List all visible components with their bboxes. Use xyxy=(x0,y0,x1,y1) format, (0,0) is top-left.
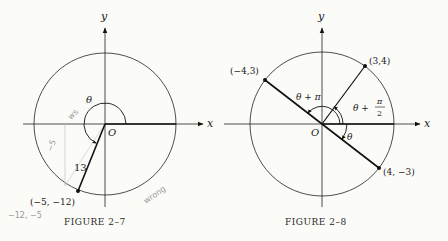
handwritten-wrong-note: wrong xyxy=(142,184,167,206)
radius-label: 13 xyxy=(74,162,87,173)
angle-label-theta: θ xyxy=(86,94,92,105)
ray-minus4-3 xyxy=(265,80,322,124)
y-axis-label: y xyxy=(317,10,325,23)
point-minus4-3-marker xyxy=(263,78,267,82)
ray-4-minus3 xyxy=(322,124,379,168)
point-3-4-marker xyxy=(363,64,367,68)
point-label-3-4: (3,4) xyxy=(369,56,390,66)
point-marker xyxy=(76,189,80,193)
y-axis-label: y xyxy=(100,10,108,23)
origin-label: O xyxy=(311,127,319,138)
angle-label-theta: θ xyxy=(347,132,353,142)
handwritten-side-note: −5 xyxy=(45,139,57,153)
figure-caption: FIGURE 2–7 xyxy=(64,217,126,227)
point-4-minus3-marker xyxy=(377,166,381,170)
point-label: (−5, −12) xyxy=(30,197,75,207)
x-axis-label: x xyxy=(207,117,214,130)
angle-label-theta-plus-pi: θ + π xyxy=(296,92,322,102)
ray-3-4 xyxy=(322,66,365,124)
terminal-ray xyxy=(78,124,105,191)
angle-label-theta-plus-half-pi: θ + xyxy=(353,103,369,113)
figure-2-7: y x O θ 13 (−5, −12) −5 ws wrong −12, −5… xyxy=(8,10,214,227)
figure-caption: FIGURE 2–8 xyxy=(285,217,347,227)
angle-label-two: 2 xyxy=(377,109,382,118)
x-axis-label: x xyxy=(424,117,431,130)
figure-2-8: y x O (3,4) (−4,3) (4, −3) θ θ + π θ + π… xyxy=(224,10,431,227)
handwritten-coord-note: −12, −5 xyxy=(8,211,42,220)
origin-label: O xyxy=(108,127,116,138)
angle-arc-theta-plus-half-pi xyxy=(334,107,343,124)
angle-label-pi: π xyxy=(376,97,383,106)
point-label-minus4-3: (−4,3) xyxy=(230,66,259,76)
point-label-4-minus3: (4, −3) xyxy=(383,167,415,177)
handwritten-arc-note: ws xyxy=(66,107,80,121)
